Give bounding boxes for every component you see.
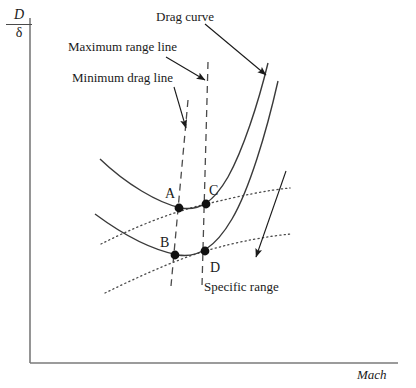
specific-range-arrow — [256, 171, 286, 257]
point-a-marker — [175, 204, 184, 213]
point-d-marker — [201, 247, 210, 256]
point-c-marker — [202, 200, 211, 209]
specific-range-curves — [101, 188, 291, 293]
x-axis-label: Mach — [357, 368, 387, 381]
point-a-label: A — [165, 187, 175, 201]
y-axis-label-denominator: δ — [6, 25, 32, 41]
drag-curve-figure: D δ Mach Drag curve Maximum range line M… — [0, 0, 416, 388]
drag-curve-label: Drag curve — [156, 10, 214, 23]
minimum-drag-line-label: Minimum drag line — [72, 71, 173, 84]
point-c-label: C — [209, 184, 218, 198]
specific-range-label: Specific range — [204, 280, 279, 293]
maximum-range-line-label: Maximum range line — [68, 40, 177, 53]
point-b-marker — [171, 251, 180, 260]
y-axis-label-numerator: D — [6, 8, 32, 24]
point-b-label: B — [160, 236, 169, 250]
figure-canvas — [0, 0, 416, 388]
minimum-drag-line-arrow — [174, 87, 186, 128]
y-axis-label: D δ — [6, 8, 32, 40]
drag-curves — [95, 63, 278, 256]
point-d-label: D — [210, 261, 220, 275]
lower-drag-curve — [95, 81, 278, 256]
drag-curve-arrow — [205, 24, 266, 75]
